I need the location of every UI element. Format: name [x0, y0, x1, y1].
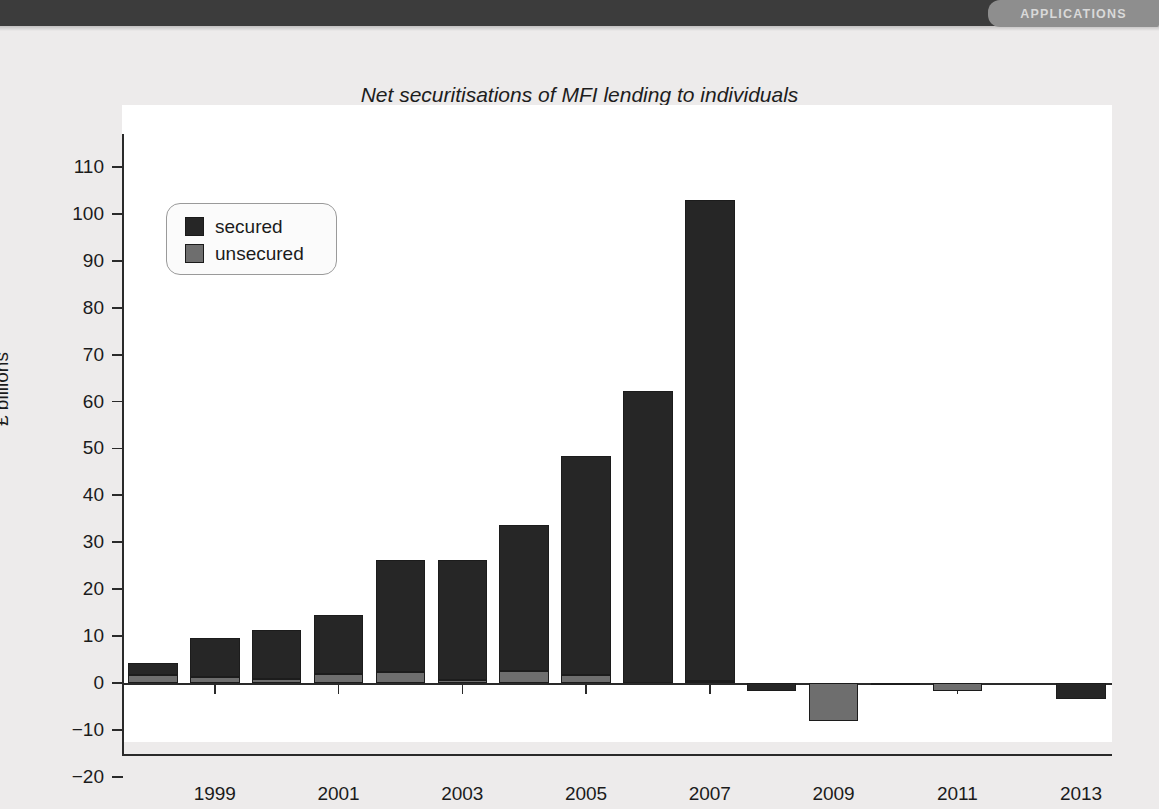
- x-tick-label-2001: 2001: [317, 783, 359, 805]
- bar-unsecured-2005: [561, 675, 611, 683]
- y-tick-20: [112, 588, 123, 590]
- x-tick-2007: [709, 683, 711, 694]
- bar-secured-2013: [1056, 683, 1106, 699]
- y-tick-0: [112, 682, 123, 684]
- y-tick--10: [112, 729, 123, 731]
- bar-secured-2008: [747, 683, 797, 691]
- bar-unsecured-2011: [933, 683, 983, 691]
- bar-secured-2004: [499, 525, 549, 671]
- legend-label-secured: secured: [215, 216, 283, 238]
- y-axis-line: [122, 134, 124, 756]
- y-tick-60: [112, 401, 123, 403]
- section-tab-label: APPLICATIONS: [1020, 7, 1127, 21]
- y-tick-label-110: 110: [48, 157, 104, 176]
- y-axis-title: £ billions: [0, 352, 13, 426]
- y-tick-label-90: 90: [48, 251, 104, 270]
- y-tick-30: [112, 541, 123, 543]
- bar-unsecured-2001: [314, 674, 364, 683]
- x-tick-label-1999: 1999: [194, 783, 236, 805]
- legend-item-unsecured[interactable]: unsecured: [185, 240, 336, 267]
- y-tick-label-60: 60: [48, 392, 104, 411]
- x-axis-line: [122, 754, 1112, 756]
- bar-unsecured-2003: [438, 680, 488, 683]
- figure-container: Net securitisations of MFI lending to in…: [0, 31, 1159, 809]
- y-tick-label-100: 100: [48, 204, 104, 223]
- y-tick-label-30: 30: [48, 532, 104, 551]
- x-tick-label-2009: 2009: [812, 783, 854, 805]
- x-tick-label-2007: 2007: [689, 783, 731, 805]
- y-tick--20: [112, 776, 123, 778]
- y-tick-70: [112, 354, 123, 356]
- bar-secured-2000: [252, 630, 302, 679]
- x-tick-label-2003: 2003: [441, 783, 483, 805]
- bar-unsecured-1999: [190, 677, 240, 683]
- x-tick-label-2005: 2005: [565, 783, 607, 805]
- bar-secured-2006: [623, 391, 673, 683]
- y-tick-label--10: −10: [48, 720, 104, 739]
- x-tick-2005: [585, 683, 587, 694]
- chart-title: Net securitisations of MFI lending to in…: [0, 83, 1159, 107]
- y-tick-label-80: 80: [48, 298, 104, 317]
- y-tick-40: [112, 494, 123, 496]
- x-tick-1999: [214, 683, 216, 694]
- y-tick-90: [112, 260, 123, 262]
- bar-secured-2002: [376, 560, 426, 673]
- bar-secured-2007: [685, 200, 735, 681]
- bar-unsecured-2004: [499, 671, 549, 683]
- bar-secured-1998: [128, 663, 178, 675]
- y-tick-10: [112, 635, 123, 637]
- bar-secured-2005: [561, 456, 611, 674]
- y-tick-80: [112, 307, 123, 309]
- bar-secured-2003: [438, 560, 488, 680]
- x-tick-2003: [462, 683, 464, 694]
- legend-item-secured[interactable]: secured: [185, 213, 336, 240]
- x-tick-2001: [338, 683, 340, 694]
- bar-unsecured-2009: [809, 683, 859, 721]
- bar-unsecured-2007: [685, 681, 735, 683]
- y-tick-label-0: 0: [48, 673, 104, 692]
- top-header-bar: [0, 0, 1159, 26]
- chart-legend: secured unsecured: [166, 203, 337, 275]
- y-tick-label-10: 10: [48, 626, 104, 645]
- legend-label-unsecured: unsecured: [215, 243, 304, 265]
- section-tab-applications[interactable]: APPLICATIONS: [988, 0, 1159, 27]
- y-tick-50: [112, 448, 123, 450]
- x-tick-label-2013: 2013: [1060, 783, 1102, 805]
- y-tick-label-50: 50: [48, 438, 104, 457]
- y-tick-label-70: 70: [48, 345, 104, 364]
- y-tick-label-20: 20: [48, 579, 104, 598]
- y-tick-100: [112, 213, 123, 215]
- bar-secured-1999: [190, 638, 240, 677]
- x-tick-label-2011: 2011: [937, 783, 978, 805]
- bar-secured-2010: [871, 683, 921, 685]
- bar-secured-2001: [314, 615, 364, 674]
- bar-unsecured-1998: [128, 675, 178, 683]
- y-tick-label-40: 40: [48, 485, 104, 504]
- y-tick-label--20: −20: [48, 767, 104, 786]
- legend-swatch-unsecured: [185, 244, 204, 263]
- legend-swatch-secured: [185, 217, 204, 236]
- y-tick-110: [112, 166, 123, 168]
- bar-unsecured-2002: [376, 672, 426, 683]
- bar-unsecured-2000: [252, 679, 302, 683]
